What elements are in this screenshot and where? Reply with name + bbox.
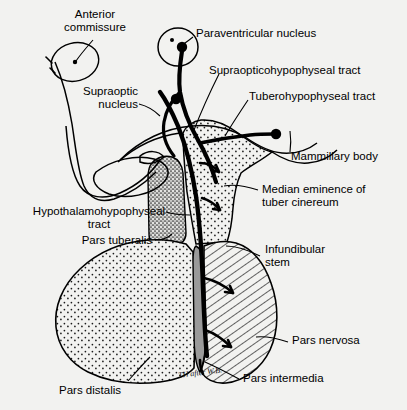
label-supraopticohypophyseal-tract: Supraopticohypophyseal tract [209,64,361,77]
label-infundibular-stem: Infundibular stem [265,243,325,269]
label-pars-distalis: Pars distalis [59,384,121,397]
label-anterior-commissure: Anterior commissure [40,8,150,34]
label-paraventricular-nucleus: Paraventricular nucleus [196,27,316,40]
label-hypothalamohypophyseal-tract: Hypothalamohypophyseal tract [8,205,190,231]
figure-canvas: Anterior commissure Supraoptic nucleus P… [0,0,407,410]
label-pars-tuberalis: Pars tuberalis [48,234,152,247]
label-pars-nervosa: Pars nervosa [292,334,360,347]
label-mammillary-body: Mammillary body [291,150,378,163]
label-supraoptic-nucleus: Supraoptic nucleus [36,85,138,111]
label-median-eminence: Median eminence of tuber cinereum [262,183,366,209]
paraventricular-nucleus-dot [170,38,174,42]
label-tuberohypophyseal-tract: Tuberohypophyseal tract [249,90,375,103]
label-pars-intermedia: Pars intermedia [243,372,324,385]
